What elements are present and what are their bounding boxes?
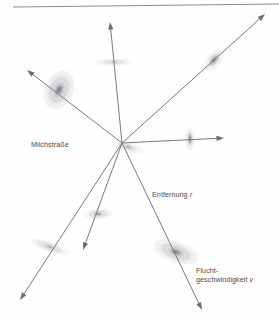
top-rule [13, 4, 279, 7]
top-rule-line [13, 4, 279, 7]
galaxy-group [30, 47, 226, 269]
label-milchstrasse: Milchstraße [31, 140, 69, 149]
label-entfernung-text: Entfernung [152, 190, 190, 199]
arrow-lower-left-head [20, 292, 26, 300]
arrow-lower-left [20, 143, 122, 300]
arrow-up-shaft [110, 27, 122, 143]
astronomy-expansion-figure: Milchstraße Entfernung r Flucht-geschwin… [0, 0, 279, 315]
galaxy-edge-on-top [96, 58, 132, 65]
label-flucht-symbol: v [250, 275, 254, 284]
arrow-upper-right [122, 14, 265, 143]
arrow-up [108, 22, 122, 143]
galaxy-spiral-lower-right [151, 235, 201, 269]
arrow-right [122, 136, 224, 143]
label-entfernung: Entfernung r [152, 190, 192, 199]
arrow-up-head [108, 22, 113, 30]
arrow-down-left-shaft [85, 143, 122, 245]
arrow-lower-left-shaft [23, 143, 122, 296]
arrow-upper-left-head [27, 70, 35, 77]
arrow-down-left-head [83, 242, 88, 250]
galaxy-right-edge-on [186, 129, 194, 150]
galaxy-right-edge-on-core [188, 133, 192, 146]
arrow-upper-right-shaft [122, 17, 261, 143]
arrow-upper-left-shaft [31, 73, 122, 143]
arrow-lower-right-head [196, 302, 202, 310]
label-fluchtgeschwindigkeit: Flucht-geschwindigkeit v [196, 266, 253, 284]
label-flucht-line1: Flucht- [196, 266, 218, 275]
galaxy-spiral-upper-left [38, 66, 79, 114]
label-flucht-line2: geschwindigkeit [196, 275, 250, 284]
arrow-down-left [83, 143, 122, 250]
arrow-right-head [216, 136, 224, 141]
galaxy-milky-way [112, 138, 145, 157]
label-entfernung-symbol: r [190, 190, 192, 199]
galaxy-lower-middle [84, 208, 112, 219]
arrow-lower-right-shaft [122, 143, 200, 305]
arrow-upper-left [27, 70, 122, 143]
arrow-lower-right [122, 143, 202, 310]
galaxy-upper-right [202, 47, 226, 73]
arrow-right-shaft [122, 138, 219, 143]
